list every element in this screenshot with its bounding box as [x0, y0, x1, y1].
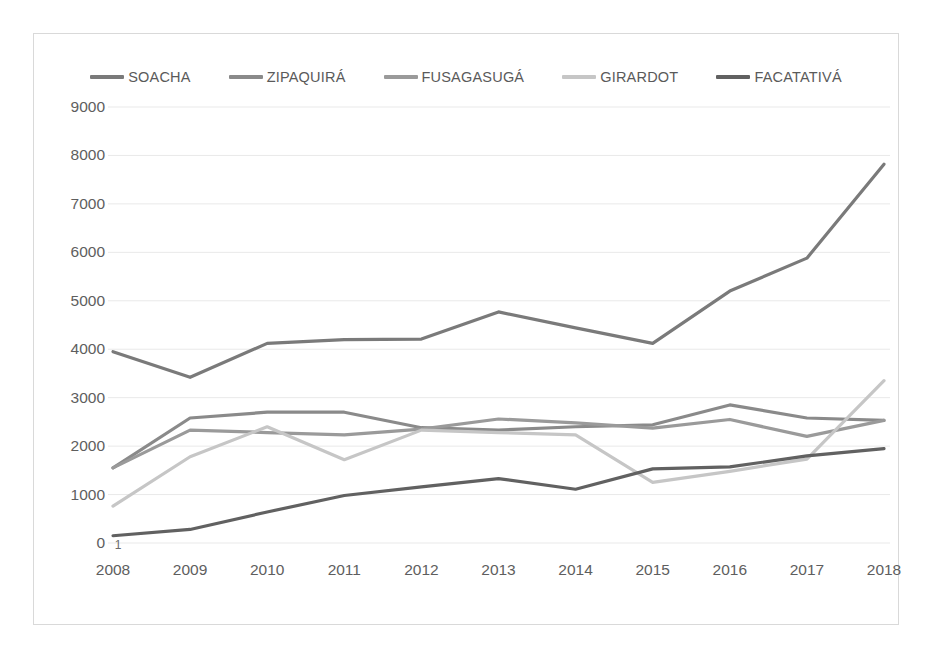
- legend-line-swatch-icon: [229, 75, 263, 79]
- chart-legend: SOACHAZIPAQUIRÁFUSAGASUGÁGIRARDOTFACATAT…: [33, 63, 899, 91]
- line-chart-figure: 0100020003000400050006000700080009000 20…: [0, 0, 934, 667]
- data-point-label: 1: [115, 538, 122, 552]
- legend-label: SOACHA: [128, 69, 190, 85]
- legend-item-zipaquir[interactable]: ZIPAQUIRÁ: [229, 69, 346, 85]
- legend-item-facatativ[interactable]: FACATATIVÁ: [716, 69, 841, 85]
- legend-label: FACATATIVÁ: [754, 69, 841, 85]
- legend-item-soacha[interactable]: SOACHA: [90, 69, 190, 85]
- legend-line-swatch-icon: [562, 75, 596, 79]
- legend-line-swatch-icon: [716, 75, 750, 79]
- data-point-labels: 1: [0, 0, 934, 667]
- legend-line-swatch-icon: [90, 75, 124, 79]
- legend-label: GIRARDOT: [600, 69, 678, 85]
- legend-item-fusagasug[interactable]: FUSAGASUGÁ: [384, 69, 525, 85]
- legend-line-swatch-icon: [384, 75, 418, 79]
- legend-item-girardot[interactable]: GIRARDOT: [562, 69, 678, 85]
- legend-label: ZIPAQUIRÁ: [267, 69, 346, 85]
- legend-label: FUSAGASUGÁ: [422, 69, 525, 85]
